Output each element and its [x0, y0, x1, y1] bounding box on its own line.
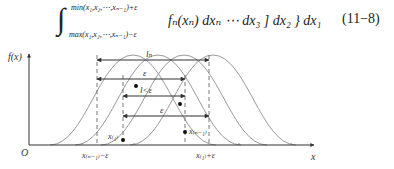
- ln-label: lₙ: [146, 49, 153, 59]
- y-axis-label: f(x): [8, 51, 23, 63]
- epsilon-label-1: ε: [143, 68, 147, 78]
- sample-points: [121, 84, 187, 142]
- epsilon-label-2: ε: [160, 105, 164, 115]
- x-axis-label: x: [310, 151, 316, 162]
- distribution-diagram: f(x) x O lₙ ε l<ε ε x₍₁₎ x₍ₙ₋₁₎ x₍ₙ₋₁₎−ε…: [0, 0, 394, 169]
- right-tick-label: x₍₁₎+ε: [195, 151, 216, 160]
- bell-curves: [50, 55, 296, 145]
- less-than-epsilon-label: l<ε: [140, 85, 153, 95]
- left-tick-label: x₍ₙ₋₁₎−ε: [81, 151, 109, 160]
- min-point-label: x₍₁₎: [107, 132, 118, 141]
- origin-label: O: [21, 147, 28, 158]
- max-point-label: x₍ₙ₋₁₎: [188, 127, 207, 136]
- curve-2: [75, 55, 241, 145]
